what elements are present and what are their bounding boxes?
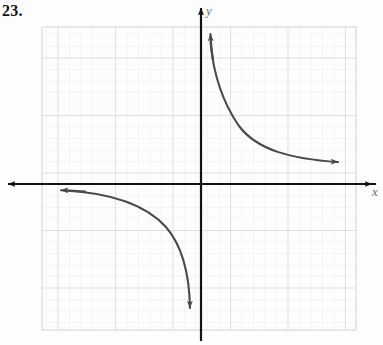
y-axis-label: y: [204, 3, 212, 18]
coordinate-plane-graph: y x: [0, 0, 383, 345]
x-axis-label: x: [371, 184, 378, 199]
grid-lines: [42, 27, 356, 330]
figure-container: 23.: [0, 0, 383, 345]
curve-lower-left-start-arrow: [61, 190, 85, 191]
